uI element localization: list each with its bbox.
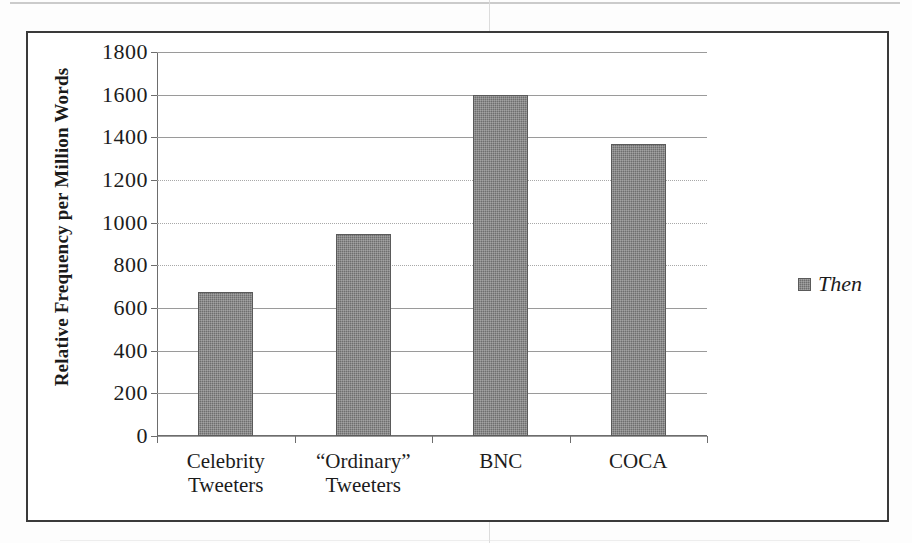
y-axis-tick bbox=[151, 393, 157, 394]
x-axis-tick bbox=[707, 436, 708, 443]
x-axis-category-label: BNC bbox=[479, 450, 522, 474]
y-axis-tick-label: 1000 bbox=[102, 210, 148, 236]
y-axis-tick-label: 200 bbox=[114, 380, 149, 406]
gridline bbox=[157, 52, 707, 53]
chart-page: Relative Frequency per Million Words 180… bbox=[0, 0, 912, 543]
x-axis-tick bbox=[295, 436, 296, 443]
bar bbox=[611, 144, 666, 436]
chart-frame: Relative Frequency per Million Words 180… bbox=[26, 31, 889, 522]
y-axis-tick-label: 800 bbox=[114, 252, 149, 278]
legend-swatch-icon bbox=[798, 278, 811, 291]
y-axis-tick bbox=[151, 52, 157, 53]
y-axis-tick-label: 400 bbox=[114, 338, 149, 364]
y-axis-tick-label: 1400 bbox=[102, 124, 148, 150]
y-axis-tick bbox=[151, 265, 157, 266]
scan-artifact-top-line bbox=[10, 2, 900, 4]
gridline bbox=[157, 95, 707, 96]
bar bbox=[336, 234, 391, 436]
bar bbox=[473, 95, 528, 436]
y-axis-tick bbox=[151, 137, 157, 138]
scan-artifact-bottom-line bbox=[60, 540, 860, 541]
x-axis-tick bbox=[157, 436, 158, 443]
y-axis-tick-label: 1800 bbox=[102, 39, 148, 65]
y-axis-tick bbox=[151, 95, 157, 96]
x-axis-category-label: “Ordinary” Tweeters bbox=[316, 450, 410, 497]
bar bbox=[198, 292, 253, 436]
chart-legend: Then bbox=[798, 271, 862, 297]
legend-label-then: Then bbox=[818, 271, 862, 297]
y-axis-tick bbox=[151, 308, 157, 309]
x-axis-category-label: Celebrity Tweeters bbox=[187, 450, 265, 497]
y-axis-tick-label: 0 bbox=[137, 423, 149, 449]
y-axis-tick bbox=[151, 180, 157, 181]
y-axis-line bbox=[157, 52, 158, 436]
y-axis-tick-label: 1600 bbox=[102, 82, 148, 108]
y-axis-tick bbox=[151, 223, 157, 224]
gridline bbox=[157, 137, 707, 138]
y-axis-tick-label: 1200 bbox=[102, 167, 148, 193]
y-axis-tick bbox=[151, 351, 157, 352]
y-axis-tick-label: 600 bbox=[114, 295, 149, 321]
plot-area: 180016001400120010008006004002000Celebri… bbox=[157, 52, 707, 436]
x-axis-tick bbox=[570, 436, 571, 443]
y-axis-title: Relative Frequency per Million Words bbox=[51, 62, 73, 392]
x-axis-category-label: COCA bbox=[609, 450, 667, 474]
x-axis-tick bbox=[432, 436, 433, 443]
